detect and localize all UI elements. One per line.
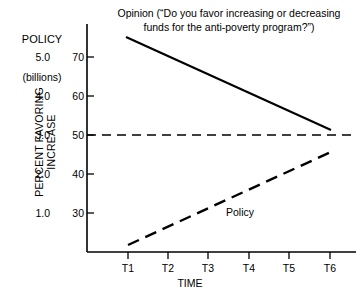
x-tick-t4: T4 — [236, 262, 262, 274]
plot-area — [0, 0, 363, 299]
x-axis-ticks — [128, 252, 330, 259]
opinion-series-line — [126, 37, 331, 130]
x-tick-t2: T2 — [155, 262, 181, 274]
policy-series-line — [128, 152, 331, 245]
x-tick-t5: T5 — [276, 262, 302, 274]
x-tick-t6: T6 — [317, 262, 343, 274]
x-axis-label: TIME — [160, 277, 220, 289]
x-tick-t3: T3 — [195, 262, 221, 274]
chart-figure: POLICY (billions) 5.0 4.0 3.0 2.0 1.0 PE… — [0, 0, 363, 299]
policy-series-label: Policy — [226, 206, 254, 218]
x-tick-t1: T1 — [115, 262, 141, 274]
